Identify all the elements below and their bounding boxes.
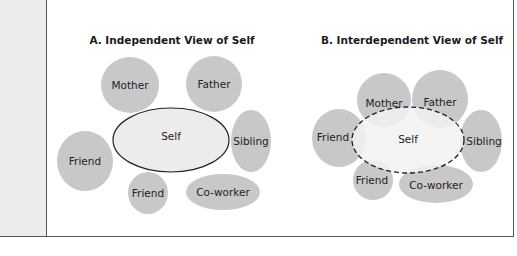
label-father: Father	[423, 96, 457, 108]
svg-text:Friend: Friend	[69, 155, 101, 167]
node-coworker: Co-worker	[186, 174, 260, 210]
node-self: Self	[113, 108, 229, 172]
node-father: Father	[186, 56, 242, 112]
panel-b-title: B. Interdependent View of Self	[321, 34, 504, 46]
label-mother: Mother	[365, 97, 403, 109]
svg-text:Self: Self	[161, 130, 181, 142]
label-coworker: Co-worker	[409, 179, 463, 191]
label-self: Self	[398, 133, 418, 145]
svg-text:Mother: Mother	[111, 79, 149, 91]
self-view-diagram: A. Independent View of Self Mother Fathe…	[0, 0, 517, 256]
panel-a-title: A. Independent View of Self	[89, 34, 255, 46]
label-sibling: Sibling	[466, 135, 501, 147]
panel-b-interdependent: B. Interdependent View of Self Mother Fa…	[312, 34, 504, 203]
label-friend: Friend	[356, 174, 388, 186]
svg-text:Co-worker: Co-worker	[196, 186, 250, 198]
svg-text:Friend: Friend	[132, 187, 164, 199]
node-mother: Mother	[101, 57, 159, 113]
panel-a-independent: A. Independent View of Self Mother Fathe…	[57, 34, 271, 214]
svg-text:Sibling: Sibling	[233, 135, 268, 147]
node-friend: Friend	[57, 131, 113, 191]
node-friend: Friend	[128, 172, 168, 214]
node-sibling: Sibling	[231, 110, 271, 172]
label-friend: Friend	[317, 131, 349, 143]
svg-text:Father: Father	[197, 78, 231, 90]
